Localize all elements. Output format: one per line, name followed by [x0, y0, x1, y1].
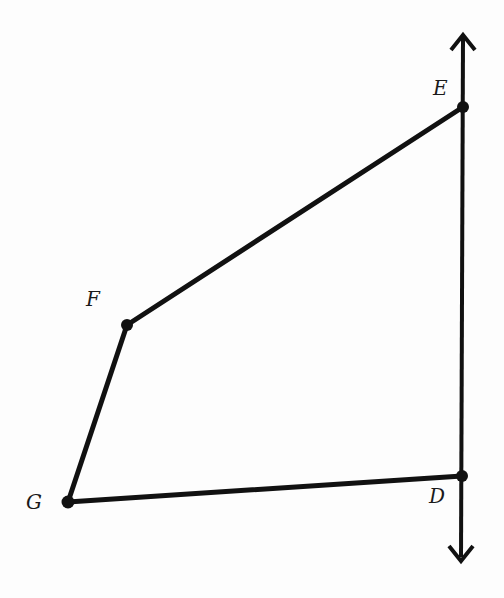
point-G [62, 496, 75, 509]
geometry-figure: E F G D [0, 0, 504, 598]
segment-EF [127, 107, 463, 325]
label-E: E [432, 76, 448, 100]
point-E [457, 101, 469, 113]
point-D [456, 470, 468, 482]
label-F: F [85, 287, 101, 311]
label-D: D [428, 484, 445, 508]
diagram-canvas: E F G D [0, 0, 504, 598]
segment-FG [68, 325, 127, 502]
point-F [121, 319, 133, 331]
label-G: G [26, 490, 42, 514]
segment-GD [68, 476, 462, 502]
